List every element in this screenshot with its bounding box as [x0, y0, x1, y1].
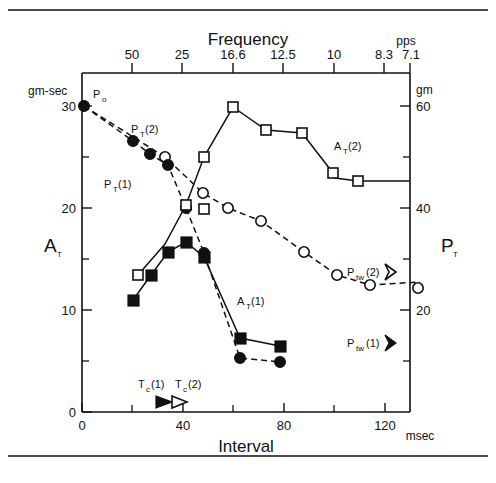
svg-text:A: A [334, 140, 342, 152]
marker-Tc-1: T c (1) [138, 378, 172, 408]
data-point [199, 152, 209, 162]
left-tick-label-1: 10 [62, 303, 76, 318]
annotation-A_T-2: A T (2) [334, 140, 361, 156]
top-axis-unit: pps [396, 34, 415, 48]
svg-text:T: T [453, 250, 458, 259]
top-tick-label-6: 7.1 [402, 47, 420, 62]
svg-text:(2): (2) [145, 123, 158, 135]
left-tick-label-3: 30 [62, 99, 76, 114]
svg-text:T: T [175, 378, 182, 390]
svg-text:(1): (1) [366, 337, 379, 349]
data-point [261, 125, 271, 135]
x-tick-label-0: 0 [78, 418, 85, 433]
data-point [235, 333, 246, 344]
data-point [199, 204, 209, 214]
figure-container: 50 25 16.6 12.5 10 8.3 7.1 Frequency pps… [0, 0, 496, 483]
svg-text:T: T [57, 250, 62, 259]
svg-text:(1): (1) [251, 295, 264, 307]
bottom-axis-ticks [82, 403, 385, 412]
x-axis-title: Interval [218, 437, 274, 456]
top-tick-label-2: 16.6 [220, 47, 245, 62]
left-axis-title: A T [44, 235, 62, 259]
marker-Tc-2: T c (2) [172, 378, 201, 408]
annotation-sub-Po: o [102, 95, 107, 104]
right-axis-title: P T [441, 235, 458, 259]
top-tick-label-3: 12.5 [270, 47, 295, 62]
data-point [353, 176, 363, 186]
data-point [146, 270, 157, 281]
top-axis-title: Frequency [208, 30, 289, 49]
annotation-Po: P o [93, 88, 107, 104]
right-tick-label-2: 60 [416, 99, 430, 114]
x-tick-label-1: 40 [176, 418, 190, 433]
svg-text:P: P [347, 337, 354, 349]
series-P_T-1 [79, 101, 286, 368]
data-point [128, 136, 139, 147]
svg-text:c: c [183, 385, 187, 394]
svg-text:(2): (2) [188, 378, 201, 390]
data-point [297, 128, 307, 138]
svg-text:A: A [237, 295, 245, 307]
left-tick-label-2: 20 [62, 201, 76, 216]
left-axis-tick-labels: 0 10 20 30 [62, 99, 76, 420]
svg-text:tw: tw [356, 273, 364, 282]
right-tick-label-0: 20 [416, 303, 430, 318]
annotation-P_T-1: P T (1) [104, 178, 131, 194]
top-tick-label-0: 50 [125, 47, 139, 62]
data-point [275, 341, 286, 352]
data-point [299, 247, 309, 257]
x-tick-label-3: 120 [374, 418, 396, 433]
svg-text:P: P [347, 266, 354, 278]
top-tick-label-4: 10 [327, 47, 341, 62]
svg-text:T: T [138, 378, 145, 390]
chart-canvas: 50 25 16.6 12.5 10 8.3 7.1 Frequency pps… [0, 0, 496, 483]
annotation-A_T-1: A T (1) [237, 295, 264, 311]
data-point [365, 280, 375, 290]
svg-text:c: c [146, 385, 150, 394]
svg-text:(2): (2) [348, 140, 361, 152]
svg-text:(1): (1) [151, 378, 164, 390]
data-point [199, 252, 210, 263]
data-point [328, 168, 338, 178]
data-point [275, 357, 286, 368]
data-point [235, 353, 246, 364]
top-tick-label-5: 8.3 [375, 47, 393, 62]
svg-text:P: P [441, 235, 454, 256]
left-axis-unit: gm-sec [28, 84, 67, 98]
top-tick-label-1: 25 [175, 47, 189, 62]
svg-text:P: P [131, 123, 138, 135]
right-tick-label-1: 40 [416, 201, 430, 216]
annotation-label-Po: P [93, 88, 100, 100]
right-axis-ticks [400, 106, 410, 361]
right-axis-unit: gm [416, 83, 433, 97]
svg-text:(2): (2) [366, 266, 379, 278]
data-point [332, 270, 342, 280]
left-axis-ticks [82, 106, 92, 412]
bottom-axis-tick-labels: 0 40 80 120 [78, 418, 395, 433]
data-point [181, 200, 191, 210]
data-point [223, 203, 233, 213]
left-tick-label-0: 0 [69, 405, 76, 420]
x-tick-label-2: 80 [277, 418, 291, 433]
data-point [145, 149, 156, 160]
data-point [181, 237, 192, 248]
svg-text:A: A [44, 235, 57, 256]
origin-point-Po [79, 101, 90, 112]
top-axis-tick-labels: 50 25 16.6 12.5 10 8.3 7.1 [125, 47, 420, 62]
svg-text:tw: tw [356, 344, 364, 353]
data-point [163, 247, 174, 258]
data-point [413, 283, 423, 293]
data-point [256, 216, 266, 226]
data-point [128, 295, 139, 306]
data-point [228, 102, 238, 112]
x-axis-unit: msec [406, 429, 435, 443]
svg-text:(1): (1) [118, 178, 131, 190]
svg-text:P: P [104, 178, 111, 190]
data-point [163, 160, 174, 171]
marker-Ptw-1: P tw (1) [347, 335, 396, 353]
data-point [133, 270, 143, 280]
data-point [198, 188, 208, 198]
top-axis-ticks [132, 63, 410, 73]
